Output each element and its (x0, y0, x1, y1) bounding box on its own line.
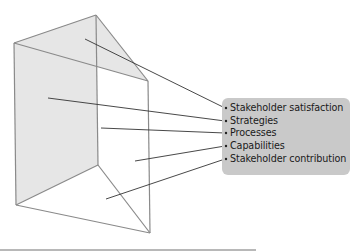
label-processes: Processes (230, 127, 276, 139)
label-capabilities: Capabilities (230, 140, 285, 152)
bottom-divider (0, 249, 256, 251)
arrow-stakeholder-contribution (106, 159, 225, 199)
arrow-processes (101, 128, 225, 133)
label-stakeholder-contribution: Stakeholder contribution (230, 153, 346, 165)
label-strategies: Strategies (230, 115, 278, 127)
arrow-stakeholder-satisfaction (85, 39, 225, 108)
prism-left-face (14, 15, 98, 205)
label-stakeholder-satisfaction: Stakeholder satisfaction (230, 102, 343, 114)
